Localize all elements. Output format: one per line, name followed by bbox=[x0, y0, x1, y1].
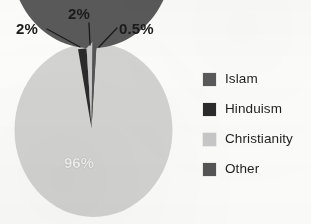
legend-item-christianity[interactable]: Christianity bbox=[203, 124, 311, 154]
pie-chart-figure: 2% 2% 0.5% 96% Islam Hinduism Christiani… bbox=[0, 0, 311, 224]
pie-label-other: 0.5% bbox=[119, 21, 154, 36]
pie-label-hinduism: 2% bbox=[16, 21, 38, 36]
legend-item-other[interactable]: Other bbox=[203, 154, 311, 184]
legend-swatch-christianity bbox=[203, 133, 216, 146]
pie-label-christianity: 2% bbox=[68, 6, 90, 21]
legend-label-other: Other bbox=[225, 162, 259, 176]
legend-swatch-islam bbox=[203, 73, 216, 86]
legend-label-islam: Islam bbox=[225, 72, 258, 86]
legend-label-christianity: Christianity bbox=[225, 132, 293, 146]
pie-label-islam: 96% bbox=[64, 155, 94, 170]
legend-item-hinduism[interactable]: Hinduism bbox=[203, 94, 311, 124]
legend-item-islam[interactable]: Islam bbox=[203, 64, 311, 94]
pie-plot-area: 2% 2% 0.5% 96% bbox=[0, 0, 190, 224]
legend-swatch-hinduism bbox=[203, 103, 216, 116]
legend-swatch-other bbox=[203, 163, 216, 176]
chart-legend: Islam Hinduism Christianity Other bbox=[203, 64, 311, 184]
legend-label-hinduism: Hinduism bbox=[225, 102, 282, 116]
